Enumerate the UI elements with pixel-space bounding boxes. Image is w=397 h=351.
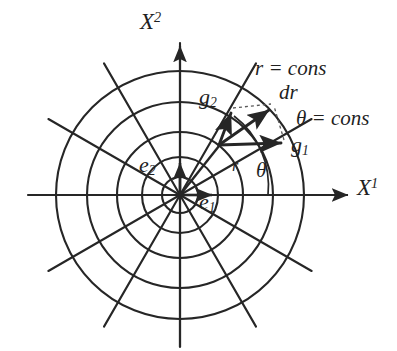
dr-label: dr <box>279 82 298 103</box>
r-const-label: r = cons <box>255 58 326 79</box>
cartesian-axes <box>28 46 348 347</box>
basis-label-e1: e1 <box>199 191 216 215</box>
r-vector <box>180 146 219 195</box>
axis-label-x2: X2 <box>140 10 161 33</box>
r-vector-label: r <box>232 158 238 174</box>
g1-vector <box>219 143 281 145</box>
polar-coordinate-diagram <box>0 0 397 351</box>
theta-const-label: θ = cons <box>296 108 369 129</box>
theta-angle-arc <box>234 116 268 195</box>
basis-label-e2: e2 <box>139 154 156 178</box>
theta-angle-label: θ <box>256 160 266 181</box>
axis-label-x1: X1 <box>357 176 378 199</box>
position-vector <box>180 146 219 195</box>
theta-arc <box>234 116 268 195</box>
basis-label-g1: g1 <box>291 134 309 158</box>
basis-label-g2: g2 <box>199 86 217 110</box>
